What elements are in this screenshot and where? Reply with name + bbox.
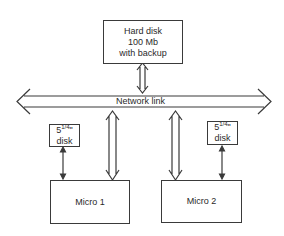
hard-disk-node: Hard disk 100 Mb with backup (103, 20, 183, 64)
network-micro2-arrow (169, 111, 182, 180)
hard-disk-label-line1: Hard disk (124, 26, 162, 37)
disk-right-label: disk (214, 133, 230, 144)
hard-disk-label-line3: with backup (119, 48, 167, 59)
disk-right-size: 51/4" (214, 122, 231, 133)
micro1-label: Micro 1 (75, 197, 105, 208)
disk-left-size: 51/4" (56, 125, 73, 136)
disk-right-inch: " (228, 122, 231, 132)
network-link-text: Network link (116, 96, 165, 106)
disk-right-size-frac: 1/4 (219, 121, 227, 127)
micro2-node: Micro 2 (161, 180, 242, 223)
disk-left-node: 51/4" disk (49, 124, 80, 147)
harddisk-network-arrow (137, 63, 148, 93)
disk-left-size-frac: 1/4 (61, 124, 69, 130)
network-link-label: Network link (116, 96, 165, 107)
disk-left-inch: " (70, 125, 73, 135)
micro2-label: Micro 2 (187, 196, 217, 207)
micro1-node: Micro 1 (50, 180, 130, 224)
network-micro1-arrow (106, 111, 119, 180)
disk-left-label: disk (56, 136, 72, 147)
disk-right-node: 51/4" disk (207, 121, 238, 145)
hard-disk-label-line2: 100 Mb (128, 37, 158, 48)
